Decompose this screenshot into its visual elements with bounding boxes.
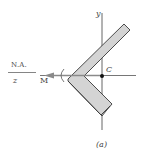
angle-section-bending-diagram: N.A. z M y C (a) [0,0,145,166]
z-axis-label: z [13,77,17,85]
figure-caption: (a) [96,141,107,149]
centroid-label: C [106,66,112,74]
angle-cross-section [68,24,130,116]
y-axis-label: y [96,10,101,18]
neutral-axis-label: N.A. [11,62,27,69]
moment-label: M [40,77,48,85]
centroid-dot [100,74,104,78]
diagram-graphics [0,0,145,166]
